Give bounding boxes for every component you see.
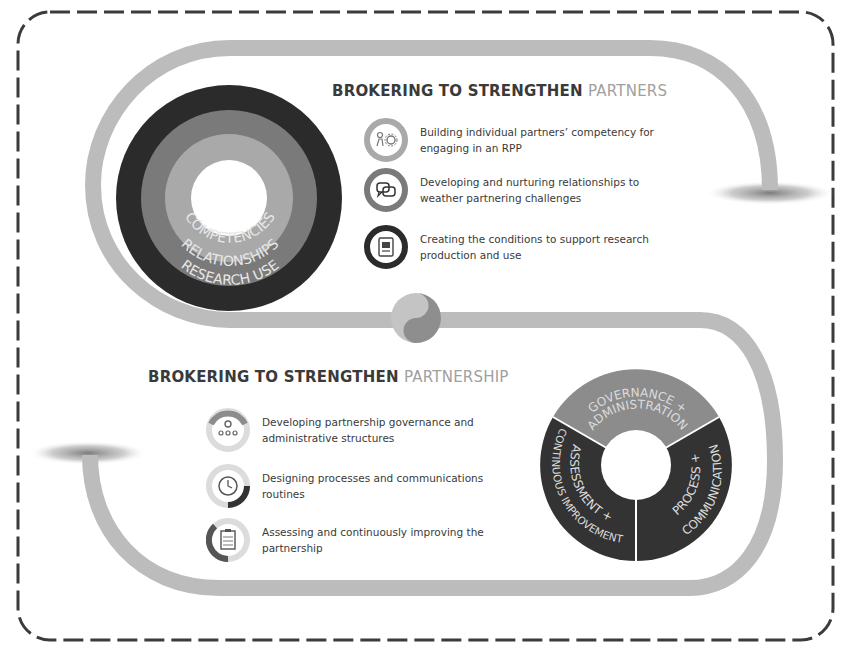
people-gear-icon <box>364 118 408 162</box>
partnership-heading-light: PARTNERSHIP <box>404 368 508 386</box>
partnership-item-label: Assessing and continuously improving the… <box>262 524 512 556</box>
partnership-item-process: Designing processes and communications r… <box>206 464 512 508</box>
partners-heading-light: PARTNERS <box>588 82 667 100</box>
partners-heading-bold: BROKERING TO STRENGTHEN <box>332 82 588 100</box>
partners-item-label: Developing and nurturing relationships t… <box>420 174 670 206</box>
partners-heading: BROKERING TO STRENGTHEN PARTNERS <box>332 82 667 100</box>
partnership-heading-bold: BROKERING TO STRENGTHEN <box>148 368 404 386</box>
clock-process-icon <box>206 464 250 508</box>
partners-item-research: Creating the conditions to support resea… <box>364 225 670 269</box>
clipboard-assessment-icon <box>206 518 250 562</box>
partners-item-label: Creating the conditions to support resea… <box>420 231 670 263</box>
governance-network-icon <box>206 408 250 452</box>
partnership-item-label: Designing processes and communications r… <box>262 470 512 502</box>
partnership-item-assessment: Assessing and continuously improving the… <box>206 518 512 562</box>
partners-item-relationships: Developing and nurturing relationships t… <box>364 168 670 212</box>
rpp-brokering-diagram: COMPETENCIES RELATIONSHIPS RESEARCH USE … <box>0 0 851 653</box>
connector-node <box>391 293 441 343</box>
partnership-item-governance: Developing partnership governance and ad… <box>206 408 512 452</box>
document-presentation-icon <box>364 225 408 269</box>
partners-item-label: Building individual partners’ competency… <box>420 124 670 156</box>
partnership-item-label: Developing partnership governance and ad… <box>262 414 512 446</box>
partnership-heading: BROKERING TO STRENGTHEN PARTNERSHIP <box>148 368 509 386</box>
concentric-rings: COMPETENCIES RELATIONSHIPS RESEARCH USE <box>116 85 342 311</box>
partnership-pie: GOVERNANCE + ADMINISTRATION PROCESS + CO… <box>540 369 732 561</box>
partners-item-competency: Building individual partners’ competency… <box>364 118 670 162</box>
speech-bubbles-icon <box>364 168 408 212</box>
